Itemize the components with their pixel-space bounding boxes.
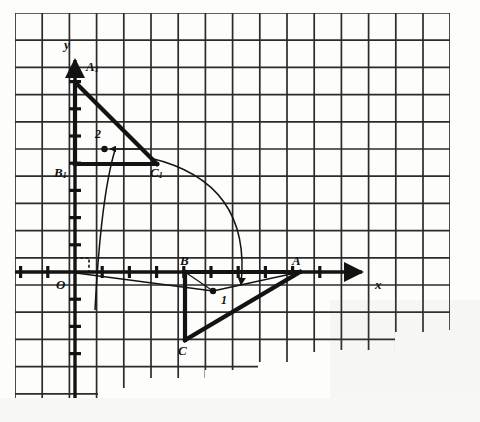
arc-2-endpoint-dot (101, 146, 107, 152)
label-vertex-C1-sub: 1 (159, 171, 163, 180)
label-vertex-C: C (178, 344, 187, 357)
label-vertex-A1-text: A (86, 59, 95, 74)
label-x-axis: x (375, 278, 382, 291)
geometry-figure (0, 0, 480, 422)
label-arc-1: 1 (221, 294, 227, 306)
label-arc-2: 2 (95, 128, 101, 140)
diagram-canvas: y x O A1 B1 C1 A B C 1 2 (0, 0, 480, 422)
label-vertex-A1: A1 (86, 60, 99, 74)
label-vertex-B1-text: B (54, 165, 63, 180)
label-vertex-B1-sub: 1 (63, 171, 67, 180)
label-vertex-C1: C1 (150, 166, 163, 180)
label-vertex-A: A (292, 254, 301, 267)
label-y-axis: y (64, 38, 70, 51)
label-vertex-B: B (180, 254, 189, 267)
label-origin: O (56, 278, 65, 291)
label-vertex-B1: B1 (54, 166, 67, 180)
label-vertex-A1-sub: 1 (95, 65, 99, 74)
label-vertex-C1-text: C (150, 165, 159, 180)
